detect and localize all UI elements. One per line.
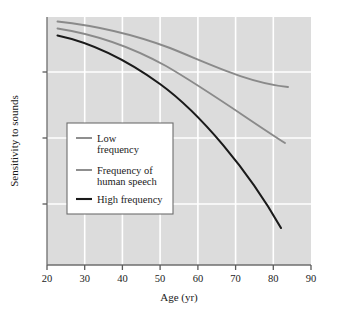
y-axis-ticks [43,72,48,204]
x-tick-label-50: 50 [155,273,166,284]
x-axis-tick-labels: 20 30 40 50 60 70 80 90 [42,273,317,284]
x-tick-label-40: 40 [117,273,128,284]
chart-legend: Low frequency Frequency of human speech … [67,123,173,214]
legend-label-low-frequency-line1: Low [97,133,117,144]
legend-label-low-frequency-line2: frequency [97,144,140,155]
x-tick-label-60: 60 [193,273,204,284]
chart-figure: 20 30 40 50 60 70 80 90 Age (yr) Sensiti… [0,0,342,311]
y-axis-title: Sensitivity to sounds [8,95,20,187]
x-axis-title: Age (yr) [160,291,198,304]
x-tick-label-90: 90 [306,273,317,284]
x-tick-label-80: 80 [268,273,279,284]
legend-label-high-frequency: High frequency [97,194,163,205]
sensitivity-vs-age-line-chart: 20 30 40 50 60 70 80 90 Age (yr) Sensiti… [0,0,342,311]
x-tick-label-70: 70 [230,273,241,284]
x-tick-label-30: 30 [79,273,90,284]
x-tick-label-20: 20 [42,273,53,284]
legend-label-speech-frequency-line2: human speech [97,176,158,187]
legend-label-speech-frequency-line1: Frequency of [97,165,153,176]
x-axis-ticks [47,265,311,270]
